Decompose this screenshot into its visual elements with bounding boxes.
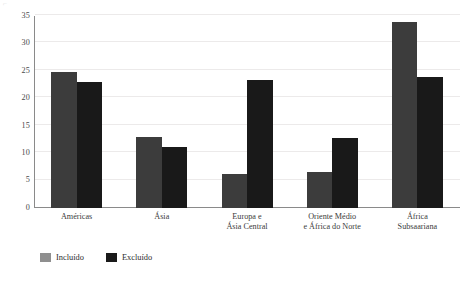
bar-group	[307, 16, 358, 208]
y-tick-label: 10	[4, 149, 30, 157]
legend-item[interactable]: Incluído	[40, 253, 84, 262]
bars-layer	[34, 16, 460, 208]
bar-excludo[interactable]	[247, 80, 273, 208]
y-tick-label: 25	[4, 67, 30, 75]
bar-group	[51, 16, 102, 208]
legend-label: Excluído	[122, 253, 152, 262]
x-tick-label: Europa eÁsia Central	[204, 212, 289, 233]
y-tick-label: 5	[4, 176, 30, 184]
y-tick-label: 20	[4, 94, 30, 102]
y-tick-label: 15	[4, 122, 30, 130]
legend-item[interactable]: Excluído	[106, 253, 152, 262]
bar-includo[interactable]	[136, 137, 162, 208]
page-artifact-mark: ⌐	[3, 1, 7, 8]
y-tick-label: 0	[4, 204, 30, 212]
x-tick-label-line: Américas	[34, 212, 119, 222]
x-tick-label-line: Ásia Central	[204, 222, 289, 232]
x-tick-label-line: Europa e	[204, 212, 289, 222]
legend-swatch-icon	[40, 253, 51, 262]
legend-swatch-icon	[106, 253, 117, 262]
x-tick-label: ÁfricaSubsaariana	[375, 212, 460, 233]
bar-group	[136, 16, 187, 208]
y-axis: 05101520253035	[0, 16, 30, 208]
x-tick-label-line: Ásia	[119, 212, 204, 222]
bar-includo[interactable]	[51, 72, 77, 208]
gridline	[35, 14, 460, 15]
bar-excludo[interactable]	[77, 82, 103, 208]
x-tick-label: Oriente Médioe África do Norte	[290, 212, 375, 233]
bar-excludo[interactable]	[417, 77, 443, 208]
x-tick-label-line: e África do Norte	[290, 222, 375, 232]
bar-group	[392, 16, 443, 208]
bar-includo[interactable]	[222, 174, 248, 208]
bar-excludo[interactable]	[332, 138, 358, 208]
bar-includo[interactable]	[307, 172, 333, 208]
bar-excludo[interactable]	[162, 147, 188, 208]
x-tick-label-line: Subsaariana	[375, 222, 460, 232]
legend-label: Incluído	[56, 253, 84, 262]
bar-includo[interactable]	[392, 22, 418, 208]
y-tick-label: 35	[4, 12, 30, 20]
x-tick-label-line: Oriente Médio	[290, 212, 375, 222]
bar-group	[222, 16, 273, 208]
chart-legend: IncluídoExcluído	[40, 253, 152, 262]
bar-chart: ⌐ 05101520253035 AméricasÁsiaEuropa eÁsi…	[0, 0, 470, 284]
y-tick-label: 30	[4, 39, 30, 47]
x-axis: AméricasÁsiaEuropa eÁsia CentralOriente …	[34, 212, 460, 244]
x-tick-label: Ásia	[119, 212, 204, 222]
x-tick-label-line: África	[375, 212, 460, 222]
x-tick-label: Américas	[34, 212, 119, 222]
